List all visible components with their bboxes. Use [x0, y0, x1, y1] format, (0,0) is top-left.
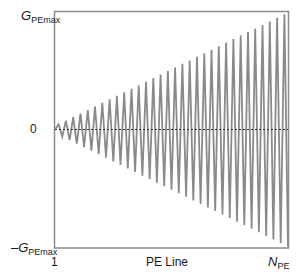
y-axis-max-label: GPEmax	[21, 9, 60, 25]
x-axis-start-label: 1	[51, 256, 58, 268]
chart-area	[0, 0, 298, 276]
x-axis-end-label: NPE	[268, 255, 289, 271]
y-axis-zero-label: 0	[30, 123, 37, 135]
zigzag-waveform	[55, 14, 288, 246]
x-axis-title: PE Line	[146, 256, 188, 268]
